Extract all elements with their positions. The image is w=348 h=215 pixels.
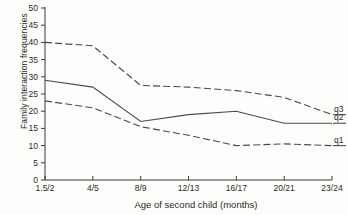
y-tick-label: 25 — [29, 89, 39, 99]
x-tick-label: 20/21 — [274, 183, 296, 193]
x-tick-label: 12/13 — [178, 183, 200, 193]
y-tick-label: 20 — [29, 106, 39, 116]
y-tick-label: 15 — [29, 123, 39, 133]
y-tick-label: 35 — [29, 55, 39, 65]
y-axis: 05101520253035404550 — [29, 3, 45, 185]
y-tick-label: 30 — [29, 72, 39, 82]
x-tick-label: 1.5/2 — [36, 183, 55, 193]
series-line-q3 — [45, 42, 332, 114]
series-label-q2: q2 — [334, 112, 344, 122]
line-chart-plot: 05101520253035404550 1.5/24/58/912/1316/… — [0, 0, 348, 215]
chart-figure: Family interaction frequencies 051015202… — [0, 0, 348, 215]
y-tick-label: 40 — [29, 37, 39, 47]
y-tick-group: 05101520253035404550 — [29, 3, 45, 185]
y-tick-label: 50 — [29, 3, 39, 13]
series-key-group: q3q2q1 — [333, 104, 346, 146]
x-tick-label: 8/9 — [135, 183, 147, 193]
x-axis: 1.5/24/58/912/1316/1720/2123/24 — [36, 176, 343, 193]
x-tick-label: 23/24 — [321, 183, 343, 193]
x-tick-group: 1.5/24/58/912/1316/1720/2123/24 — [36, 176, 343, 193]
x-tick-label: 16/17 — [226, 183, 248, 193]
y-tick-label: 10 — [29, 141, 39, 151]
y-tick-label: 45 — [29, 20, 39, 30]
x-tick-label: 4/5 — [87, 183, 99, 193]
series-group — [45, 42, 332, 145]
series-label-q1: q1 — [334, 135, 344, 145]
x-axis-title: Age of second child (months) — [0, 199, 348, 210]
y-tick-label: 5 — [33, 158, 38, 168]
